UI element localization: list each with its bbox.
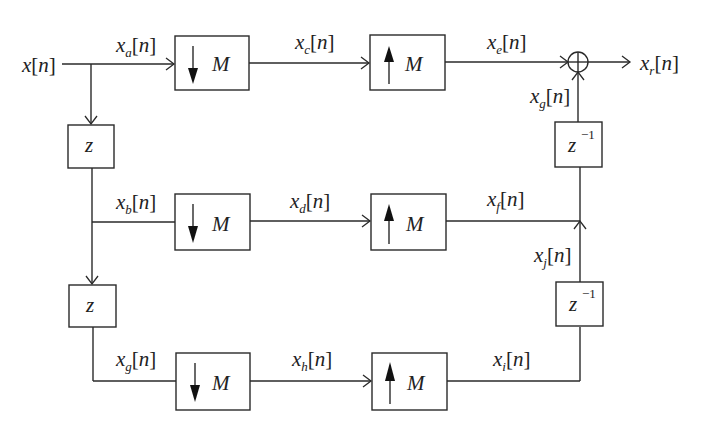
label-input: x[n] <box>21 53 56 77</box>
delay-z-2-label: z <box>85 293 94 317</box>
label-output: xr[n] <box>639 51 679 78</box>
right-delay-chain: z −1 z −1 <box>555 72 603 381</box>
delay-zinv-bottom <box>556 282 603 326</box>
downsampler-top-label: M <box>211 52 231 76</box>
upsampler-bottom-label: M <box>406 371 426 395</box>
delay-zinv-bottom-label: z <box>568 292 577 316</box>
downsampler-bottom-label: M <box>211 371 231 395</box>
delay-z-1-label: z <box>84 133 93 157</box>
delay-zinv-top <box>555 122 602 167</box>
label-xg-bottom: xg[n] <box>115 347 156 374</box>
delay-zinv-top-exp: −1 <box>581 127 595 142</box>
label-xh: xh[n] <box>291 347 332 374</box>
svg-text:xr[n]: xr[n] <box>639 51 679 78</box>
summer <box>568 52 630 72</box>
label-xi: xi[n] <box>492 347 530 374</box>
delay-zinv-bottom-exp: −1 <box>582 286 596 301</box>
upsampler-top-label: M <box>404 52 424 76</box>
delay-zinv-top-label: z <box>567 133 576 157</box>
label-xb: xb[n] <box>115 190 156 217</box>
label-xd: xd[n] <box>289 189 330 216</box>
svg-text:x[n]: x[n] <box>21 53 56 77</box>
label-xe: xe[n] <box>486 30 527 57</box>
filter-bank-diagram: M M z z M <box>0 0 705 436</box>
downsampler-middle-label: M <box>211 212 231 236</box>
label-xj: xj[n] <box>533 243 571 270</box>
label-xf: xf[n] <box>486 187 524 214</box>
upsampler-middle-label: M <box>405 212 425 236</box>
label-xa: xa[n] <box>115 33 156 60</box>
label-xc: xc[n] <box>294 30 335 57</box>
label-xg-right: xg[n] <box>529 84 570 111</box>
